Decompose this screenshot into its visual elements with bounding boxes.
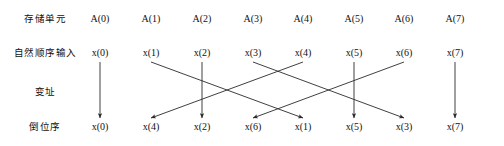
input-cell: x(0) [92,47,109,58]
row-label-natural-order-input: 自然顺序输入 [14,45,77,59]
storage-cell: A(2) [193,13,212,24]
storage-cell: A(0) [91,13,110,24]
storage-cell: A(6) [395,13,414,24]
output-cell: x(6) [245,121,262,132]
storage-cell: A(4) [294,13,313,24]
input-cell: x(6) [396,47,413,58]
bit-reversal-diagram: 存储单元 自然顺序输入 变址 倒位序 A(0) A(1) A(2) A(3) A… [0,0,504,146]
output-cell: x(3) [396,121,413,132]
mapping-arrow [151,62,303,118]
mapping-arrow [151,62,303,118]
input-cell: x(3) [245,47,262,58]
output-cell: x(7) [447,121,464,132]
row-label-bit-reversed-order: 倒位序 [29,119,61,133]
input-cell: x(2) [194,47,211,58]
output-cell: x(1) [295,121,312,132]
output-cell: x(0) [92,121,109,132]
row-label-index-address: 变址 [35,84,56,98]
storage-cell: A(5) [345,13,364,24]
output-cell: x(4) [143,121,160,132]
mapping-arrow [253,62,404,118]
storage-cell: A(1) [142,13,161,24]
input-cell: x(1) [143,47,160,58]
row-label-storage-unit: 存储单元 [24,11,66,25]
output-cell: x(5) [346,121,363,132]
storage-cell: A(3) [244,13,263,24]
input-cell: x(4) [295,47,312,58]
input-cell: x(5) [346,47,363,58]
input-cell: x(7) [447,47,464,58]
storage-cell: A(7) [446,13,465,24]
mapping-arrow [253,62,404,118]
output-cell: x(2) [194,121,211,132]
